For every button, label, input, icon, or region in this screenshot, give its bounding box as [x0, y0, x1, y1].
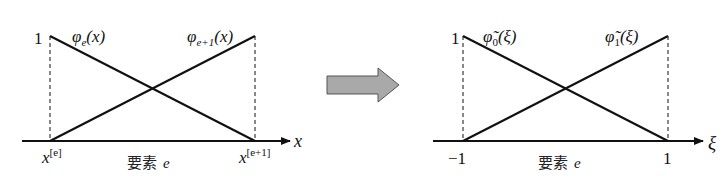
node-minus-one-label: −1	[448, 149, 466, 168]
x-axis-label: x	[293, 131, 302, 151]
finite-element-basis-diagram: 1 φe(x) φe+1(x) x x[e] x[e+1] 要素e 1 φ̃0(…	[0, 0, 727, 180]
phi-e1-label: φe+1(x)	[187, 27, 233, 48]
y-tick-one: 1	[34, 29, 43, 48]
node-one-label: 1	[663, 149, 672, 168]
element-e-label: 要素e	[127, 154, 170, 172]
physical-element-diagram: 1 φe(x) φe+1(x) x x[e] x[e+1] 要素e	[22, 27, 302, 172]
node-right-label: x[e+1]	[238, 146, 270, 167]
reference-element-diagram: 1 φ̃0(ξ) φ̃1(ξ) ξ −1 1 要素e	[433, 27, 717, 172]
right-arrow-icon	[327, 68, 399, 102]
phi-e-label: φe(x)	[72, 27, 106, 48]
phi0-tilde-label: φ̃0(ξ)	[483, 27, 517, 48]
xi-axis-label: ξ	[708, 132, 717, 153]
phi1-tilde-label: φ̃1(ξ)	[605, 27, 639, 48]
element-e-label: 要素e	[538, 154, 581, 172]
y-tick-one: 1	[451, 29, 460, 48]
node-left-label: x[e]	[41, 146, 62, 167]
